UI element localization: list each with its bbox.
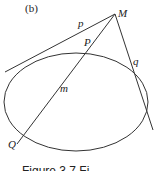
point-label-M: M: [117, 7, 128, 19]
line-label-m: m: [60, 82, 68, 94]
point-label-Q: Q: [8, 138, 16, 150]
panel-label: (b): [25, 2, 38, 15]
point-label-P: P: [83, 36, 91, 48]
diagram-canvas: (b) M P Q p q m Figure 3.7 Fi: [0, 0, 155, 171]
secant-line-m: [17, 14, 115, 144]
ellipse-curve: [4, 53, 148, 151]
line-label-p: p: [77, 17, 84, 29]
tangent-line-q: [115, 14, 153, 130]
figure-caption: Figure 3.7 Fi: [22, 164, 89, 171]
line-label-q: q: [133, 55, 139, 67]
tangent-line-p: [5, 14, 115, 72]
